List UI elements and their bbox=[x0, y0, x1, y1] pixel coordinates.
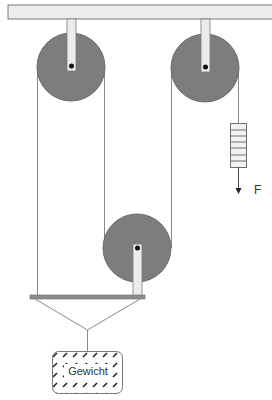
pulley-hanger bbox=[67, 19, 76, 71]
force-label: F bbox=[254, 183, 261, 197]
spring-scale bbox=[231, 124, 247, 168]
axle-icon bbox=[69, 64, 74, 69]
weight-label: Gewicht bbox=[68, 365, 108, 377]
pulley-top-left bbox=[37, 19, 105, 101]
force-arrow-icon bbox=[236, 167, 242, 194]
pulley-bottom bbox=[103, 214, 171, 296]
pulley-hanger bbox=[201, 19, 210, 72]
weight: Gewicht bbox=[53, 352, 123, 394]
suspension-lines bbox=[35, 299, 140, 352]
pulley-top-right bbox=[171, 19, 239, 102]
axle-icon bbox=[135, 246, 140, 251]
crossbar bbox=[30, 295, 145, 299]
pulley-hanger bbox=[133, 244, 142, 296]
axle-icon bbox=[203, 65, 208, 70]
pulley-diagram: F Gewicht bbox=[0, 0, 272, 400]
ceiling-beam bbox=[8, 5, 272, 19]
